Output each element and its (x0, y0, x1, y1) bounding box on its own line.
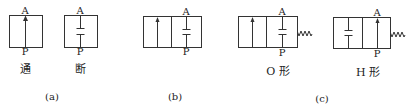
port-p-label: P (374, 48, 381, 59)
port-a-label: A (278, 6, 285, 17)
valve-h-type-symbol (334, 18, 406, 49)
valve-two-position-symbol (144, 17, 202, 48)
caption-closed: 断 (75, 60, 86, 76)
port-a-label: A (373, 7, 380, 18)
valve-open-symbol (10, 16, 43, 48)
caption-o-type: O 形 (266, 62, 290, 78)
port-a-label: A (21, 5, 28, 16)
arrow-head-icon (251, 17, 255, 22)
spring-icon (298, 31, 313, 36)
subfigure-label-b: (b) (168, 91, 182, 102)
port-p-label: P (183, 46, 190, 57)
port-p-label: P (279, 47, 286, 58)
port-p-label: P (22, 46, 29, 57)
arrow-head-icon (23, 16, 28, 22)
port-a-label: A (76, 5, 83, 16)
arrow-head-icon (156, 17, 160, 22)
caption-open: 通 (20, 60, 31, 76)
arrow-head-icon (376, 18, 380, 23)
subfigure-label-c: (c) (315, 93, 328, 104)
port-a-label: A (182, 6, 189, 17)
subfigure-label-a: (a) (45, 91, 59, 102)
spring-icon (391, 32, 406, 37)
caption-h-type: H 形 (356, 63, 380, 79)
valve-closed-symbol (65, 16, 98, 48)
valve-diagram: A P A P A P A P A P 通 断 O 形 H 形 (a) (b) … (0, 0, 406, 108)
valve-o-type-symbol (239, 17, 313, 48)
port-p-label: P (77, 46, 84, 57)
